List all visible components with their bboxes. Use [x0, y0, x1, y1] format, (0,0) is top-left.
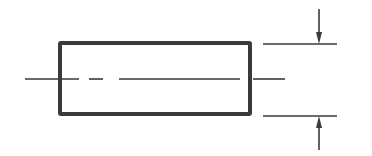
arrowhead: [316, 116, 322, 128]
extension-lines: [263, 44, 337, 116]
dimension-arrows: [316, 9, 322, 150]
technical-drawing: [0, 0, 372, 156]
arrowhead: [316, 32, 322, 44]
top-arrow-icon: [316, 9, 322, 44]
bottom-arrow-icon: [316, 116, 322, 150]
